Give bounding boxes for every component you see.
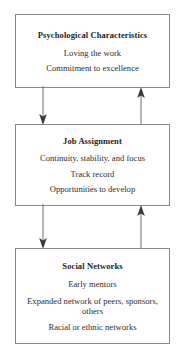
box-psychological-line-1: Loving the work bbox=[64, 48, 121, 60]
box-psychological-characteristics: Psychological Characteristics Loving the… bbox=[15, 14, 170, 88]
box-psychological-line-2: Commitment to excellence bbox=[46, 63, 139, 75]
box-job-line-1: Continuity, stability, and focus bbox=[40, 153, 145, 165]
box-job-assignment: Job Assignment Continuity, stability, an… bbox=[15, 124, 170, 206]
box-social-line-1: Early mentors bbox=[68, 279, 116, 291]
arrow-psychological-to-job-assignment bbox=[36, 86, 50, 126]
box-job-line-2: Track record bbox=[71, 169, 115, 181]
arrow-job-assignment-to-psychological bbox=[134, 86, 148, 126]
box-social-line-3: Racial or ethnic networks bbox=[48, 322, 136, 334]
box-social-title: Social Networks bbox=[62, 261, 122, 272]
box-job-line-3: Opportunities to develop bbox=[50, 184, 135, 196]
box-social-line-2: Expanded network of peers, sponsors, oth… bbox=[23, 296, 163, 317]
flow-diagram: Psychological Characteristics Loving the… bbox=[0, 0, 184, 359]
box-social-networks: Social Networks Early mentors Expanded n… bbox=[15, 248, 170, 344]
box-job-title: Job Assignment bbox=[63, 136, 122, 147]
arrow-job-assignment-to-social-networks bbox=[36, 204, 50, 250]
box-psychological-title: Psychological Characteristics bbox=[38, 30, 147, 41]
arrow-social-networks-to-job-assignment bbox=[134, 204, 148, 250]
